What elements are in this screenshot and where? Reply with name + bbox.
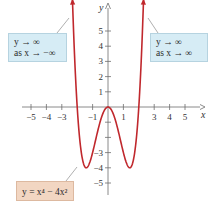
y-tick-label: −4 — [93, 163, 103, 173]
x-tick-label: −3 — [57, 112, 67, 122]
x-tick-label: −4 — [42, 112, 52, 122]
y-tick-label: 3 — [99, 56, 104, 66]
x-tick-label: 5 — [183, 112, 188, 122]
leader-right — [148, 18, 158, 33]
leader-left — [57, 18, 69, 33]
leader-equation — [66, 167, 77, 181]
y-tick-label: 5 — [99, 26, 104, 36]
annotation-equation: y = x⁴ − 4x² — [16, 181, 74, 201]
y-tick-label: 4 — [99, 41, 104, 51]
annotation-right-line1: y → ∞ — [156, 37, 202, 48]
annotation-left-line1: y → ∞ — [14, 37, 61, 48]
equation-label: y = x⁴ − 4x² — [22, 187, 67, 197]
x-tick-label: 1 — [121, 112, 126, 122]
y-tick-label: 1 — [99, 87, 104, 97]
axes: xy — [22, 2, 206, 195]
y-tick-label: −5 — [93, 178, 103, 188]
curve-left-arrow-icon — [70, 0, 75, 5]
function-plot: xy −5−4−3−1134554321−3−4−5 — [0, 0, 219, 208]
x-tick-label: −5 — [26, 112, 36, 122]
x-tick-label: −1 — [88, 112, 98, 122]
y-tick-label: 2 — [99, 72, 104, 82]
y-axis-label: y — [98, 2, 104, 13]
annotation-left-end-behavior: y → ∞ as x → −∞ — [8, 33, 67, 62]
annotation-leaders — [57, 18, 158, 181]
curve-right-arrow-icon — [141, 0, 146, 5]
x-tick-label: 4 — [167, 112, 172, 122]
annotation-right-line2: as x → ∞ — [156, 48, 202, 59]
x-tick-label: 3 — [152, 112, 157, 122]
annotation-left-line2: as x → −∞ — [14, 48, 61, 59]
annotation-right-end-behavior: y → ∞ as x → ∞ — [150, 33, 208, 62]
y-tick-label: −3 — [93, 148, 103, 158]
x-axis-label: x — [200, 109, 206, 120]
